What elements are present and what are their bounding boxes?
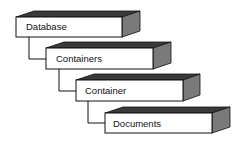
node-documents: Documents — [105, 107, 230, 133]
box-top-face — [16, 11, 140, 17]
connector-containers-container — [59, 69, 76, 91]
box-top-face — [105, 107, 230, 113]
node-label: Container — [85, 85, 126, 96]
connector-container-documents — [88, 101, 105, 123]
box-top-face — [46, 42, 171, 48]
node-containers: Containers — [46, 42, 171, 69]
node-label: Containers — [56, 53, 102, 64]
node-container: Container — [76, 74, 200, 101]
hierarchy-diagram: Database Containers Container Documents — [0, 0, 242, 153]
box-top-face — [76, 74, 200, 80]
node-label: Database — [26, 21, 67, 32]
node-database: Database — [16, 11, 140, 37]
node-label: Documents — [113, 118, 161, 129]
connector-database-containers — [29, 37, 46, 59]
